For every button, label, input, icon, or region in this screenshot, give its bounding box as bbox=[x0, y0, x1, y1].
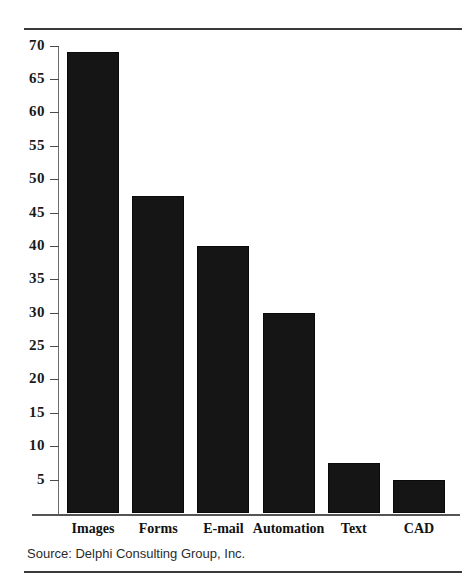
y-tick-label: 20 bbox=[3, 370, 45, 387]
y-tick-label: 25 bbox=[3, 337, 45, 354]
y-tick-label: 70 bbox=[3, 37, 45, 54]
y-tick-mark bbox=[50, 446, 59, 447]
bar-text bbox=[328, 463, 380, 513]
y-tick-mark bbox=[50, 246, 59, 247]
y-tick-mark bbox=[50, 213, 59, 214]
y-tick-label: 35 bbox=[3, 270, 45, 287]
source-note: Source: Delphi Consulting Group, Inc. bbox=[27, 546, 245, 561]
y-tick-mark bbox=[50, 279, 59, 280]
y-tick-mark bbox=[50, 79, 59, 80]
y-tick-label: 40 bbox=[3, 237, 45, 254]
y-tick-label: 5 bbox=[3, 471, 45, 488]
y-tick-mark bbox=[50, 313, 59, 314]
x-axis-baseline bbox=[32, 514, 460, 516]
bar-forms bbox=[132, 196, 184, 513]
y-tick-mark bbox=[50, 146, 59, 147]
bar-e-mail bbox=[197, 246, 249, 513]
y-tick-label: 55 bbox=[3, 137, 45, 154]
y-tick-label: 60 bbox=[3, 103, 45, 120]
y-tick-mark bbox=[50, 179, 59, 180]
bar-cad bbox=[393, 480, 445, 513]
y-tick-label: 10 bbox=[3, 437, 45, 454]
y-axis-line bbox=[58, 46, 59, 515]
bar-chart-plot: 706560555045403530252015105 ImagesFormsE… bbox=[0, 0, 475, 581]
y-tick-mark bbox=[50, 480, 59, 481]
bar-automation bbox=[263, 313, 315, 513]
y-tick-mark bbox=[50, 112, 59, 113]
chart-page: 706560555045403530252015105 ImagesFormsE… bbox=[0, 0, 475, 581]
bar-images bbox=[67, 52, 119, 513]
y-tick-label: 15 bbox=[3, 404, 45, 421]
y-tick-mark bbox=[50, 413, 59, 414]
y-tick-label: 45 bbox=[3, 204, 45, 221]
bottom-divider-rule bbox=[24, 571, 462, 573]
y-tick-mark bbox=[50, 379, 59, 380]
y-tick-mark bbox=[50, 46, 59, 47]
y-tick-mark bbox=[50, 346, 59, 347]
y-tick-label: 65 bbox=[3, 70, 45, 87]
y-tick-label: 30 bbox=[3, 304, 45, 321]
y-tick-label: 50 bbox=[3, 170, 45, 187]
category-label-cad: CAD bbox=[377, 521, 461, 537]
